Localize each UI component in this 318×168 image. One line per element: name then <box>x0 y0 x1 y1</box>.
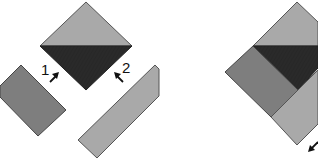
step-label-2: 2 <box>122 59 130 76</box>
step-label-1: 1 <box>41 61 49 78</box>
quilt-diagram: 1 2 <box>0 0 318 168</box>
left-panel: 1 2 <box>0 2 159 158</box>
arrow-down-left-icon <box>308 142 318 152</box>
arrow-1-icon <box>50 72 59 82</box>
assembled-top-triangle <box>253 2 318 46</box>
right-panel <box>225 2 318 152</box>
center-square-top-half <box>40 2 132 46</box>
